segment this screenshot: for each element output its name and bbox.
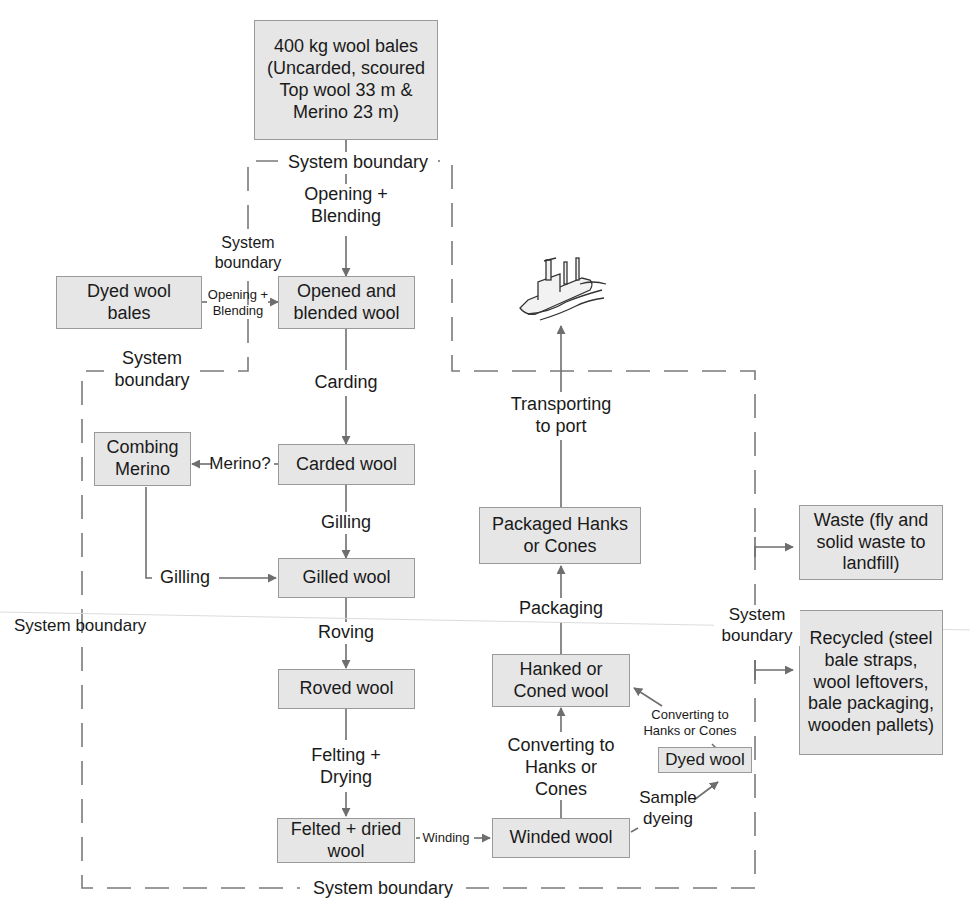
edge-label-packaging: Packaging — [506, 598, 616, 620]
edge-label-felting-drying: Felting + Drying — [286, 745, 406, 789]
node-combing-merino: Combing Merino — [94, 432, 191, 486]
node-gilled-wool: Gilled wool — [278, 558, 415, 598]
boundary-label-top: System boundary — [278, 152, 438, 174]
edge-label-roving: Roving — [306, 622, 386, 644]
node-dyed-wool-bales: Dyed wool bales — [56, 276, 202, 329]
node-opened-blended-wool: Opened and blended wool — [278, 276, 415, 329]
boundary-label-right: System boundary — [714, 605, 800, 646]
edge-label-winding: Winding — [416, 830, 476, 846]
edge-label-carding: Carding — [296, 372, 396, 394]
edge-label-converting-main: Converting to Hanks or Cones — [496, 735, 626, 801]
edge-label-transporting: Transporting to port — [496, 394, 626, 438]
edge-label-opening-blending: Opening + Blending — [276, 184, 416, 228]
node-dyed-wool: Dyed wool — [658, 747, 752, 773]
node-wool-bales: 400 kg wool bales (Uncarded, scoured Top… — [254, 20, 438, 140]
node-roved-wool: Roved wool — [278, 669, 415, 709]
boundary-label-left-mid: System boundary — [104, 348, 200, 392]
boundary-label-far-left: System boundary — [14, 616, 174, 637]
edge-label-converting-dyed: Converting to Hanks or Cones — [630, 707, 750, 739]
edge-label-opening-blending-dyed: Opening + Blending — [200, 287, 276, 319]
node-recycled: Recycled (steel bale straps, wool leftov… — [799, 610, 943, 755]
node-packaged-hanks-cones: Packaged Hanks or Cones — [479, 507, 641, 564]
boundary-label-inner-left: System boundary — [210, 233, 286, 272]
wool-process-flow-diagram: 400 kg wool bales (Uncarded, scoured Top… — [0, 0, 970, 922]
system-boundary-lines — [82, 161, 755, 888]
edge-label-gilling-merino: Gilling — [150, 567, 220, 589]
node-winded-wool: Winded wool — [492, 818, 630, 858]
boundary-label-bottom: System boundary — [300, 878, 466, 900]
edge-label-merino-question: Merino? — [200, 454, 280, 475]
node-hanked-coned-wool: Hanked or Coned wool — [492, 654, 630, 707]
node-waste: Waste (fly and solid waste to landfill) — [799, 505, 943, 580]
edge-label-sample-dyeing: Sample dyeing — [628, 788, 708, 829]
node-felted-dried-wool: Felted + dried wool — [277, 818, 415, 863]
edge-label-gilling: Gilling — [306, 512, 386, 534]
ship-icon — [520, 258, 606, 320]
node-carded-wool: Carded wool — [278, 444, 415, 485]
